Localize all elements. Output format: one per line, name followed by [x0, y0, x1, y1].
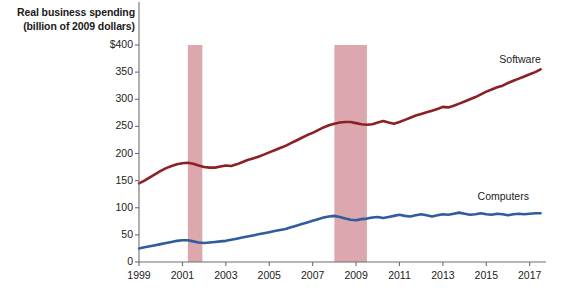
x-tick-label: 2017	[510, 269, 550, 281]
y-tick-label: 250	[91, 119, 133, 131]
x-tick-label: 2001	[162, 269, 202, 281]
x-axis-ticks	[139, 262, 530, 266]
y-tick-label: $400	[91, 38, 133, 50]
x-tick-label: 2013	[423, 269, 463, 281]
x-tick-label: 2009	[336, 269, 376, 281]
series-label-software: Software	[499, 53, 540, 65]
y-tick-label: 300	[91, 92, 133, 104]
chart-plot-area	[0, 0, 562, 293]
y-axis-ticks	[135, 45, 139, 262]
y-tick-label: 350	[91, 65, 133, 77]
recession-band-2001	[188, 45, 203, 262]
recession-band-2008	[334, 45, 367, 262]
x-tick-label: 2015	[466, 269, 506, 281]
y-tick-label: 0	[91, 255, 133, 267]
y-tick-label: 200	[91, 147, 133, 159]
x-tick-label: 2007	[293, 269, 333, 281]
y-tick-label: 50	[91, 228, 133, 240]
x-tick-label: 2003	[206, 269, 246, 281]
series-label-computers: Computers	[478, 190, 529, 202]
y-tick-label: 100	[91, 201, 133, 213]
y-tick-label: 150	[91, 174, 133, 186]
chart-container: Real business spending (billion of 2009 …	[0, 0, 562, 293]
x-tick-label: 2005	[249, 269, 289, 281]
x-tick-label: 1999	[119, 269, 159, 281]
x-tick-label: 2011	[379, 269, 419, 281]
